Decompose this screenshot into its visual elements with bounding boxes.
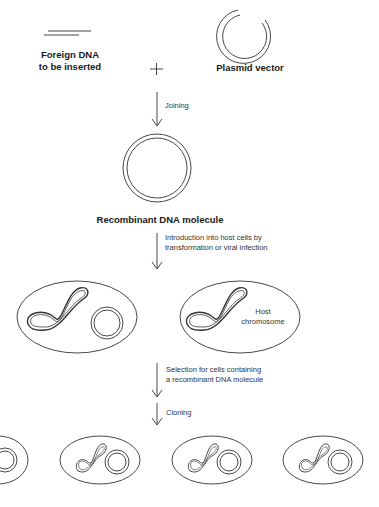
step-joining-label: Joining [165, 101, 189, 111]
step-selection-line2: a recombinant DNA molecule [166, 375, 263, 385]
clone-cell-icon [172, 436, 252, 484]
step-cloning-label: Cloning [166, 408, 191, 418]
recombinant-dna-label: Recombinant DNA molecule [80, 214, 240, 226]
host-chromosome-label: Host chromosome [238, 307, 288, 327]
host-cell-with-recombinant-icon [17, 281, 137, 353]
clone-cell-icon [0, 436, 28, 484]
plasmid-vector-icon [217, 10, 271, 63]
plus-icon [150, 63, 163, 75]
diagram-graphics [0, 0, 379, 507]
foreign-dna-icon [44, 31, 91, 35]
step-introduction-line2: transformation or viral infection [165, 243, 268, 253]
arrow-down-selection-icon [152, 363, 162, 397]
arrow-down-cloning-icon [152, 403, 162, 425]
arrow-down-introduction-icon [152, 233, 162, 269]
step-selection-label: Selection for cells containing a recombi… [166, 365, 263, 385]
clone-cell-icon [60, 436, 140, 484]
step-introduction-line1: Introduction into host cells by [165, 233, 268, 243]
step-introduction-label: Introduction into host cells by transfor… [165, 233, 268, 253]
foreign-dna-label: Foreign DNA to be inserted [30, 49, 110, 73]
foreign-dna-label-line2: to be inserted [30, 61, 110, 73]
host-chromosome-line2: chromosome [238, 317, 288, 327]
recombinant-dna-icon [123, 134, 191, 202]
foreign-dna-label-line1: Foreign DNA [30, 49, 110, 61]
arrow-down-joining-icon [152, 92, 162, 126]
plasmid-vector-label: Plasmid vector [208, 62, 292, 74]
host-chromosome-line1: Host [238, 307, 288, 317]
clone-cell-icon [283, 436, 363, 484]
step-selection-line1: Selection for cells containing [166, 365, 263, 375]
